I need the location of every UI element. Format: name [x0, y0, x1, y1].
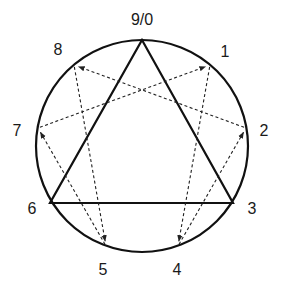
point-label-3: 3 [248, 201, 257, 217]
triangle-9-3-6 [50, 40, 233, 203]
point-label-1: 1 [221, 44, 230, 60]
point-label-5: 5 [99, 262, 108, 278]
hexad-arrows [40, 67, 244, 245]
arrow-8-to-5 [74, 67, 105, 241]
point-label-2: 2 [260, 123, 269, 139]
point-label-8: 8 [54, 42, 63, 58]
point-label-6: 6 [28, 201, 37, 217]
point-label-7: 7 [13, 123, 22, 139]
enneagram-diagram [0, 0, 281, 292]
point-label-4: 4 [173, 262, 182, 278]
point-label-9: 9/0 [131, 12, 153, 28]
outer-circle [36, 40, 248, 252]
